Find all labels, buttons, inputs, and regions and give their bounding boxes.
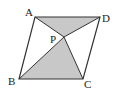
label-c: C xyxy=(84,78,91,90)
label-p: P xyxy=(50,33,56,45)
label-d: D xyxy=(102,12,110,24)
label-a: A xyxy=(25,6,33,18)
shaded-triangle-apd xyxy=(35,17,100,37)
label-b: B xyxy=(8,75,15,87)
parallelogram-diagram: A D P B C xyxy=(0,0,118,90)
